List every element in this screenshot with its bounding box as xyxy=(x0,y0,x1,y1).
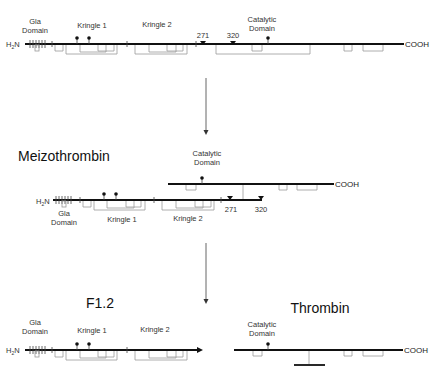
disulfide-bond xyxy=(162,201,214,210)
gla-domain-label-line1: Gla xyxy=(58,209,71,218)
glycosylation-site-icon xyxy=(102,192,106,200)
glycosylation-site-icon xyxy=(200,176,204,184)
glycosylation-site-icon xyxy=(266,342,270,350)
meizothrombin-chain: Meizothrombin Catalytic Domain COOH H2N xyxy=(18,148,359,227)
disulfide-bond xyxy=(83,201,91,207)
gla-domain-label-line2: Domain xyxy=(51,218,77,227)
kringle2-label: Kringle 2 xyxy=(173,214,203,223)
chain-end-arrow-icon xyxy=(197,347,203,353)
disulfide-bond xyxy=(363,351,383,356)
disulfide-bond xyxy=(279,185,287,190)
disulfide-bond xyxy=(186,185,196,190)
gla-domain-label-line2: Domain xyxy=(22,327,48,336)
gla-residue-ticks xyxy=(30,346,45,357)
disulfide-bond xyxy=(253,351,262,356)
disulfide-bond xyxy=(66,351,117,360)
c-terminus-label: COOH xyxy=(405,40,429,49)
kringle2-label: Kringle 2 xyxy=(142,20,172,29)
disulfide-bond xyxy=(135,45,187,54)
gla-residue-ticks xyxy=(56,196,71,207)
disulfide-bond xyxy=(126,201,141,207)
cleavage-site-320: 320 xyxy=(255,205,268,214)
cleavage-site-271: 271 xyxy=(197,31,210,40)
gla-domain-label-line1: Gla xyxy=(29,318,42,327)
disulfide-bond xyxy=(252,45,262,51)
glycosylation-site-icon xyxy=(75,36,79,44)
gla-residue-ticks xyxy=(30,40,45,51)
kringle2-label: Kringle 2 xyxy=(140,325,170,334)
catalytic-domain-label-line2: Domain xyxy=(249,24,275,33)
cleavage-site-320: 320 xyxy=(227,31,240,40)
thrombin-title: Thrombin xyxy=(290,300,349,316)
disulfide-bond xyxy=(55,45,63,51)
disulfide-bond xyxy=(297,185,317,190)
catalytic-domain-label-line1: Catalytic xyxy=(193,149,222,158)
c-terminus-label: COOH xyxy=(404,346,428,355)
disulfide-bond xyxy=(66,45,117,54)
cleavage-site-271: 271 xyxy=(225,205,238,214)
meizothrombin-title: Meizothrombin xyxy=(18,148,110,164)
glycosylation-site-icon xyxy=(87,342,91,350)
prothrombin-activation-diagram: Gla Domain Kringle 1 Kringle 2 Catalytic… xyxy=(0,0,445,371)
kringle1-label: Kringle 1 xyxy=(77,326,107,335)
disulfide-bond xyxy=(344,45,352,51)
catalytic-domain-label-line1: Catalytic xyxy=(248,320,277,329)
c-terminus-label: COOH xyxy=(335,180,359,189)
glycosylation-site-icon xyxy=(266,36,270,44)
gla-domain-label-line2: Domain xyxy=(22,26,48,35)
glycosylation-site-icon xyxy=(75,342,79,350)
catalytic-domain-label-line2: Domain xyxy=(194,158,220,167)
conversion-arrow xyxy=(204,78,209,135)
disulfide-bond xyxy=(167,351,183,357)
prothrombin-chain: Gla Domain Kringle 1 Kringle 2 Catalytic… xyxy=(6,15,429,54)
thrombin-fragment: Thrombin Catalytic Domain COOH xyxy=(234,300,428,365)
kringle1-label: Kringle 1 xyxy=(107,215,137,224)
f12-fragment: F1.2 Gla Domain Kringle 1 Kringle 2 H2N xyxy=(6,295,203,360)
n-terminus-label: H2N xyxy=(6,40,20,50)
catalytic-domain-label-line1: Catalytic xyxy=(248,15,277,24)
f12-title: F1.2 xyxy=(86,295,114,311)
disulfide-bond xyxy=(55,351,63,357)
disulfide-bond xyxy=(363,45,383,51)
disulfide-bond xyxy=(135,351,187,360)
glycosylation-site-icon xyxy=(87,36,91,44)
n-terminus-label: H2N xyxy=(6,346,20,356)
gla-domain-label-line1: Gla xyxy=(29,17,42,26)
conversion-arrow xyxy=(204,243,209,304)
disulfide-bond xyxy=(344,351,352,356)
kringle1-label: Kringle 1 xyxy=(77,21,107,30)
disulfide-bond xyxy=(94,201,145,210)
glycosylation-site-icon xyxy=(114,192,118,200)
disulfide-bond xyxy=(216,45,310,54)
disulfide-bond xyxy=(167,45,183,51)
n-terminus-label: H2N xyxy=(36,197,50,207)
catalytic-domain-label-line2: Domain xyxy=(249,329,275,338)
